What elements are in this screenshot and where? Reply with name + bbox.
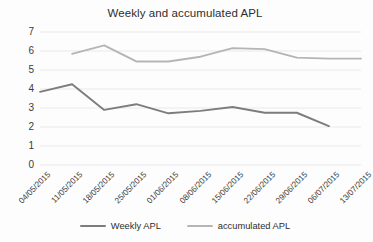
y-axis-tick-label: 6 (18, 45, 34, 56)
legend-item[interactable]: accumulated APL (187, 221, 290, 231)
y-axis-tick-label: 7 (18, 26, 34, 37)
legend-label: accumulated APL (218, 221, 290, 231)
y-axis-tick-label: 2 (18, 121, 34, 132)
legend-item[interactable]: Weekly APL (80, 221, 161, 231)
y-axis-tick-label: 3 (18, 102, 34, 113)
legend-line-swatch (80, 225, 106, 227)
series-line (40, 84, 329, 126)
chart-legend: Weekly APLaccumulated APL (0, 221, 370, 231)
y-axis-tick-label: 5 (18, 64, 34, 75)
y-axis-tick-label: 0 (18, 159, 34, 170)
gridlines (40, 32, 361, 165)
y-axis-tick-label: 4 (18, 83, 34, 94)
y-axis-tick-label: 1 (18, 140, 34, 151)
legend-line-swatch (187, 225, 213, 227)
series-line (72, 45, 361, 61)
legend-label: Weekly APL (111, 221, 161, 231)
series-lines (40, 45, 361, 126)
